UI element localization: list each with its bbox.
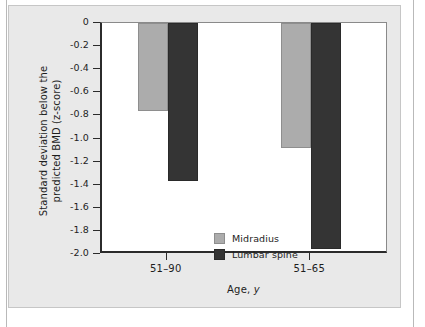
legend-swatch-lumbar-spine xyxy=(214,249,225,260)
x-axis-title: Age, y xyxy=(100,284,387,295)
y-tick xyxy=(93,114,100,115)
y-tick xyxy=(93,138,100,139)
page-rule-left xyxy=(6,0,7,327)
y-tick xyxy=(93,253,100,254)
bar-lumbar-spine-51-65 xyxy=(311,23,341,249)
y-tick-label: -1.6 xyxy=(70,202,89,212)
legend-item: Midradius xyxy=(214,231,298,245)
chart-legend: Midradius Lumbar spine xyxy=(214,231,298,263)
bar-lumbar-spine-51-90 xyxy=(168,23,198,181)
y-tick-label: 0 xyxy=(83,17,89,27)
x-axis-title-text: Age, y xyxy=(227,284,260,295)
y-tick-label: -2.0 xyxy=(70,248,89,258)
plot-area: Midradius Lumbar spine xyxy=(100,22,387,253)
legend-item: Lumbar spine xyxy=(214,247,298,261)
y-tick-label: -1.0 xyxy=(70,133,89,143)
y-tick xyxy=(93,68,100,69)
figure-root: Standard deviation below the predicted B… xyxy=(0,0,425,327)
page-rule-right xyxy=(413,0,414,327)
legend-label-midradius: Midradius xyxy=(232,233,279,244)
y-axis-title: Standard deviation below the predicted B… xyxy=(37,31,63,251)
x-tick-label: 51–65 xyxy=(269,263,349,274)
x-tick xyxy=(309,253,310,260)
y-tick xyxy=(93,230,100,231)
legend-swatch-midradius xyxy=(214,233,225,244)
bar-midradius-51-65 xyxy=(281,23,311,148)
y-tick-label: -1.2 xyxy=(70,156,89,166)
legend-label-lumbar-spine: Lumbar spine xyxy=(232,249,298,260)
y-tick xyxy=(93,22,100,23)
y-tick-label: -1.8 xyxy=(70,225,89,235)
y-tick-label: -0.8 xyxy=(70,109,89,119)
y-tick xyxy=(93,45,100,46)
y-tick xyxy=(93,161,100,162)
bar-midradius-51-90 xyxy=(138,23,168,111)
y-tick-label: -0.2 xyxy=(70,40,89,50)
y-tick-label: -0.4 xyxy=(70,63,89,73)
y-axis-title-line1: Standard deviation below the xyxy=(38,66,49,216)
y-tick xyxy=(93,184,100,185)
y-tick-label: -0.6 xyxy=(70,86,89,96)
y-axis-title-line2: predicted BMD (z-score) xyxy=(51,80,62,203)
x-tick-label: 51–90 xyxy=(126,263,206,274)
y-tick-label: -1.4 xyxy=(70,179,89,189)
y-tick xyxy=(93,91,100,92)
x-tick xyxy=(166,253,167,260)
y-tick xyxy=(93,207,100,208)
